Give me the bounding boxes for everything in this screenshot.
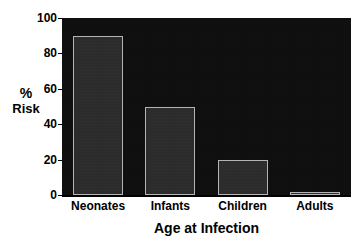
x-axis-line <box>62 195 351 197</box>
bar <box>218 160 268 195</box>
x-axis-title: Age at Infection <box>62 220 351 236</box>
y-axis-tick-label: 100 <box>30 12 57 24</box>
bar <box>145 107 195 196</box>
y-axis-tick-label: 20 <box>30 154 57 166</box>
bar-texture <box>146 108 194 195</box>
plot-area <box>62 18 351 195</box>
bar-chart-figure: % Risk 020406080100 NeonatesInfantsChild… <box>0 0 363 245</box>
bar-texture <box>291 193 339 194</box>
bar-texture <box>219 161 267 194</box>
y-axis-tick-label: 40 <box>30 118 57 130</box>
y-axis-tick-label: 60 <box>30 83 57 95</box>
y-axis-tick-label: 80 <box>30 47 57 59</box>
bar <box>73 36 123 195</box>
bar-texture <box>74 37 122 194</box>
x-axis-tick-label: Adults <box>255 199 363 213</box>
